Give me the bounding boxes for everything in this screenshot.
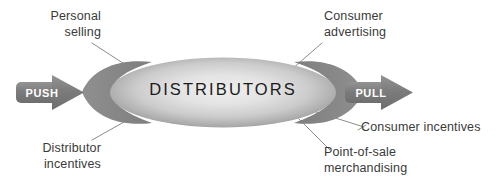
push-arrow-label: PUSH	[20, 87, 64, 99]
callout-consumer-advertising-line1: Consumer	[324, 9, 494, 25]
hub-label: DISTRIBUTORS	[110, 80, 336, 99]
callout-consumer-incentives: Consumer incentives	[361, 120, 497, 136]
callout-distributor-incentives: Distributor incentives	[0, 141, 101, 172]
callout-point-of-sale-merchandising-line1: Point-of-sale	[324, 145, 497, 161]
callout-personal-selling-line1: Personal	[0, 9, 101, 25]
callout-personal-selling-line2: selling	[0, 25, 101, 41]
push-pull-distribution-diagram: DISTRIBUTORS PUSH PULL Personal selling …	[0, 0, 497, 183]
callout-consumer-advertising: Consumer advertising	[324, 9, 494, 40]
callout-distributor-incentives-line1: Distributor	[0, 141, 101, 157]
callout-consumer-incentives-line1: Consumer incentives	[361, 120, 497, 136]
pull-arrow-label: PULL	[349, 87, 393, 99]
callout-personal-selling: Personal selling	[0, 9, 101, 40]
callout-distributor-incentives-line2: incentives	[0, 157, 101, 173]
callout-point-of-sale-merchandising: Point-of-sale merchandising	[324, 145, 497, 176]
callout-point-of-sale-merchandising-line2: merchandising	[324, 161, 497, 177]
callout-consumer-advertising-line2: advertising	[324, 25, 494, 41]
